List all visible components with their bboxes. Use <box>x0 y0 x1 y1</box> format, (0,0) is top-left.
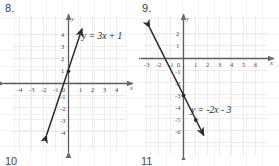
equation-label-9: y = -2x - 3 <box>191 105 231 115</box>
svg-text:5: 5 <box>242 61 245 68</box>
svg-text:1: 1 <box>61 67 64 74</box>
svg-text:0: 0 <box>177 61 180 68</box>
point-8-y-intercept <box>67 70 71 74</box>
svg-text:1: 1 <box>176 42 179 49</box>
problem-number-11: 11 <box>141 155 152 166</box>
equation-9-text: y = -2x - 3 <box>191 105 231 115</box>
y-axis-label-8: y <box>70 15 74 22</box>
svg-text:-3: -3 <box>144 61 149 68</box>
svg-text:2: 2 <box>61 55 64 62</box>
svg-text:6: 6 <box>254 61 258 68</box>
problem-number-10: 10 <box>5 155 17 166</box>
svg-text:2: 2 <box>176 30 179 37</box>
svg-text:2: 2 <box>91 86 94 93</box>
plot-grid-9 <box>143 16 267 154</box>
svg-text:-4: -4 <box>60 129 66 136</box>
svg-text:-2: -2 <box>156 61 161 68</box>
svg-text:4: 4 <box>115 86 119 93</box>
point-9-second <box>194 118 198 122</box>
svg-text:3: 3 <box>218 61 221 68</box>
svg-text:2: 2 <box>206 61 209 68</box>
problem-8: 8. <box>0 0 139 150</box>
y-axis-label-9: y <box>185 15 189 22</box>
svg-text:-2: -2 <box>60 105 65 112</box>
svg-text:1: 1 <box>79 86 82 93</box>
point-9-y-intercept <box>182 94 186 98</box>
svg-text:3: 3 <box>103 86 106 93</box>
svg-text:-5: -5 <box>175 116 180 123</box>
coordinate-plane-9: -3 -2 -1 0 1 2 3 4 5 6 2 1 -1 -2 -3 <box>139 10 279 160</box>
x-tick-labels-9: -3 -2 -1 0 1 2 3 4 5 6 <box>144 61 258 68</box>
equation-8-text: y = 3x + 1 <box>82 31 122 41</box>
problem-9: 9. <box>139 0 279 150</box>
x-axis-label-9: x <box>269 59 273 66</box>
svg-text:-6: -6 <box>175 128 181 135</box>
svg-text:-4: -4 <box>175 104 181 111</box>
svg-text:4: 4 <box>230 61 234 68</box>
svg-text:-1: -1 <box>175 68 180 75</box>
svg-text:-1: -1 <box>53 86 58 93</box>
graph-9: -3 -2 -1 0 1 2 3 4 5 6 2 1 -1 -2 -3 <box>139 10 279 160</box>
svg-text:-2: -2 <box>41 86 46 93</box>
worksheet-page: 8. <box>0 0 279 166</box>
svg-text:-4: -4 <box>17 86 23 93</box>
svg-text:-3: -3 <box>60 117 65 124</box>
x-axis-label-8: x <box>129 84 133 91</box>
equation-label-8: y = 3x + 1 <box>82 31 122 41</box>
svg-text:1: 1 <box>194 61 197 68</box>
svg-text:-3: -3 <box>175 92 180 99</box>
svg-text:3: 3 <box>61 43 64 50</box>
svg-text:-3: -3 <box>29 86 34 93</box>
